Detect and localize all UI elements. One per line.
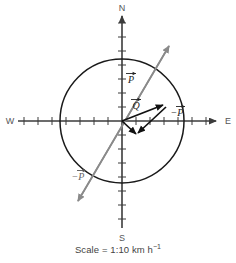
label-p-upper: P — [127, 74, 134, 85]
vector-diagram-figure: N S W E P Q −P −P Scale = 1 — [0, 0, 236, 263]
compass-label-west: W — [6, 116, 15, 126]
compass-label-east: E — [225, 116, 231, 126]
label-minus-p-right: −P — [171, 107, 184, 118]
scale-caption: Scale = 1:10 km h−1 — [0, 243, 236, 255]
axes-group — [18, 16, 216, 228]
vector-q-arrow — [122, 105, 163, 121]
label-minus-p-right-group: −P — [171, 105, 185, 118]
scale-caption-text: Scale = 1:10 km h — [75, 244, 153, 255]
label-minus-p-lower: −P — [72, 171, 85, 182]
scale-caption-exponent: −1 — [153, 243, 161, 250]
p-upper-overbar-head — [133, 72, 136, 76]
compass-label-north: N — [119, 3, 126, 13]
compass-label-south: S — [119, 233, 125, 243]
label-q-group: Q — [131, 98, 141, 111]
label-q-vector: Q — [132, 100, 140, 111]
label-p-upper-group: P — [126, 72, 136, 85]
label-minus-p-lower-group: −P — [72, 169, 86, 182]
vector-minus-p-arrow — [138, 107, 166, 133]
black-vectors-group — [122, 105, 166, 134]
vector-diagram-canvas: N S W E P Q −P −P — [0, 0, 236, 245]
vector-resultant-arrow — [122, 121, 136, 134]
